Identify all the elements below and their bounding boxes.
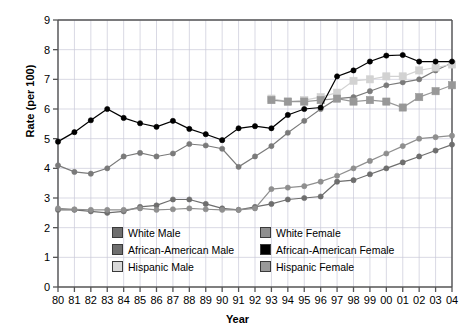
data-point-marker (285, 112, 290, 117)
data-point-marker (55, 206, 60, 211)
data-point-marker (417, 154, 422, 159)
data-point-marker (55, 163, 60, 168)
data-point-marker (220, 146, 225, 151)
data-point-marker (400, 160, 405, 165)
x-axis-tick-label: 96 (315, 294, 327, 306)
y-axis-tick-label: 8 (44, 44, 50, 56)
x-axis-tick-label: 85 (134, 294, 146, 306)
legend-item-hispanic-male: Hispanic Male (112, 261, 260, 273)
x-axis-tick-label: 97 (331, 294, 343, 306)
data-point-marker (203, 132, 208, 137)
data-point-marker (417, 77, 422, 82)
legend-item-hispanic-female: Hispanic Female (260, 261, 408, 273)
data-point-marker (252, 124, 257, 129)
chart-container: 0123456789808182838485868788899091929394… (0, 0, 475, 335)
legend-item-white-female: White Female (260, 227, 408, 239)
data-point-marker (351, 178, 356, 183)
data-point-marker (121, 207, 126, 212)
data-point-marker (252, 206, 257, 211)
data-point-marker (121, 154, 126, 159)
data-point-marker (105, 207, 110, 212)
y-axis-tick-label: 9 (44, 14, 50, 26)
data-point-marker (154, 207, 159, 212)
data-point-marker (318, 179, 323, 184)
y-axis-tick-label: 3 (44, 192, 50, 204)
data-point-marker (154, 154, 159, 159)
y-axis-tick-label: 6 (44, 103, 50, 115)
x-axis-tick-label: 98 (347, 294, 359, 306)
data-point-marker (433, 59, 438, 64)
y-axis-tick-label: 5 (44, 133, 50, 145)
data-point-marker (384, 53, 389, 58)
data-point-marker (252, 154, 257, 159)
data-point-marker (432, 88, 439, 95)
data-point-marker (72, 207, 77, 212)
x-axis-tick-label: 88 (183, 294, 195, 306)
data-point-marker (285, 130, 290, 135)
data-point-marker (187, 141, 192, 146)
data-point-marker (417, 59, 422, 64)
data-point-marker (187, 206, 192, 211)
x-axis-tick-label: 91 (232, 294, 244, 306)
data-point-marker (88, 207, 93, 212)
data-point-marker (449, 133, 454, 138)
data-point-marker (285, 185, 290, 190)
data-point-marker (88, 171, 93, 176)
data-point-marker (399, 73, 406, 80)
data-point-marker (55, 139, 60, 144)
data-point-marker (432, 64, 439, 71)
data-point-marker (187, 197, 192, 202)
data-point-marker (203, 143, 208, 148)
x-axis-title: Year (0, 313, 475, 325)
data-point-marker (448, 82, 455, 89)
data-point-marker (383, 73, 390, 80)
legend-swatch-icon (260, 227, 271, 238)
data-point-marker (236, 126, 241, 131)
legend-label: White Female (276, 227, 341, 239)
data-point-marker (154, 124, 159, 129)
data-point-marker (137, 150, 142, 155)
y-axis-tick-label: 0 (44, 281, 50, 293)
data-point-marker (449, 142, 454, 147)
data-point-marker (384, 151, 389, 156)
data-point-marker (170, 207, 175, 212)
data-point-marker (400, 143, 405, 148)
y-axis-tick-label: 2 (44, 222, 50, 234)
data-point-marker (334, 173, 339, 178)
data-point-marker (121, 115, 126, 120)
data-point-marker (302, 106, 307, 111)
data-point-marker (269, 143, 274, 148)
data-point-marker (400, 80, 405, 85)
data-point-marker (170, 197, 175, 202)
y-axis-tick-label: 4 (44, 162, 50, 174)
x-axis-tick-label: 89 (200, 294, 212, 306)
data-point-marker (203, 201, 208, 206)
x-axis-tick-label: 82 (85, 294, 97, 306)
legend-row: Hispanic Male Hispanic Female (112, 258, 412, 275)
data-point-marker (284, 98, 291, 105)
data-point-marker (88, 118, 93, 123)
data-point-marker (367, 59, 372, 64)
data-point-marker (72, 169, 77, 174)
data-point-marker (318, 194, 323, 199)
x-axis-tick-label: 02 (413, 294, 425, 306)
x-axis-tick-label: 94 (282, 294, 294, 306)
y-axis-tick-label: 7 (44, 73, 50, 85)
data-point-marker (416, 94, 423, 101)
data-point-marker (170, 151, 175, 156)
data-point-marker (366, 97, 373, 104)
data-point-marker (72, 130, 77, 135)
x-axis-tick-label: 86 (150, 294, 162, 306)
data-point-marker (220, 138, 225, 143)
legend-swatch-icon (260, 261, 271, 272)
legend-row: African-American Male African-American F… (112, 241, 412, 258)
x-axis-tick-label: 80 (52, 294, 64, 306)
data-point-marker (400, 52, 405, 57)
x-axis-tick-label: 01 (397, 294, 409, 306)
data-point-marker (203, 207, 208, 212)
legend-row: White Male White Female (112, 224, 412, 241)
data-point-marker (285, 197, 290, 202)
data-point-marker (367, 172, 372, 177)
data-point-marker (416, 67, 423, 74)
x-axis-tick-label: 04 (446, 294, 458, 306)
